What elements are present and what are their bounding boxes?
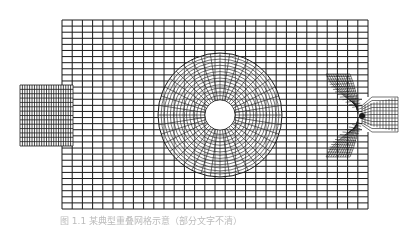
y-junction-grid: [326, 74, 398, 157]
left-fine-grid-block: [20, 85, 73, 146]
annular-polar-grid: [158, 53, 282, 177]
figure-caption: 图 1.1 某典型重叠网格示意（部分文字不清）: [60, 214, 360, 226]
mesh-figure: [0, 0, 416, 226]
